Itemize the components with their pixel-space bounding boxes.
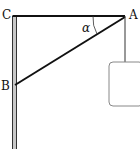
- label-alpha: α: [82, 21, 90, 35]
- label-c: C: [2, 8, 11, 22]
- label-a: A: [128, 8, 138, 22]
- angle-arc: [93, 16, 97, 34]
- wall: [13, 16, 17, 149]
- diagram-svg: C A B α: [0, 0, 140, 149]
- label-b: B: [1, 79, 10, 93]
- load-box: [109, 62, 140, 106]
- diagram-canvas: C A B α: [0, 0, 140, 149]
